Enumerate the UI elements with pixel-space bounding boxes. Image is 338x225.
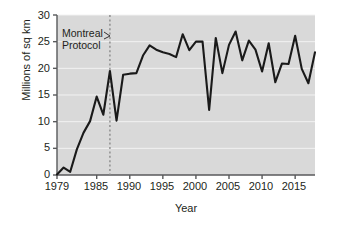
annotation-line-1: Montreal [62, 27, 103, 39]
x-tick-label-1979: 1979 [37, 181, 77, 192]
y-tick-label-0: 0 [24, 169, 50, 180]
ozone-hole-area-chart: Millions of sq km Year 30 25 20 15 10 5 … [0, 0, 338, 225]
y-tick-label-25: 25 [24, 36, 50, 47]
y-tick-label-30: 30 [24, 10, 50, 21]
x-axis-title: Year [57, 202, 315, 214]
annotation-line-2: Protocol [62, 39, 103, 51]
y-tick-label-5: 5 [24, 142, 50, 153]
y-tick-label-20: 20 [24, 63, 50, 74]
x-tick-label-2015: 2015 [274, 181, 314, 192]
y-tick-label-15: 15 [24, 89, 50, 100]
montreal-protocol-annotation: Montreal Protocol [62, 27, 103, 51]
y-tick-label-10: 10 [24, 116, 50, 127]
